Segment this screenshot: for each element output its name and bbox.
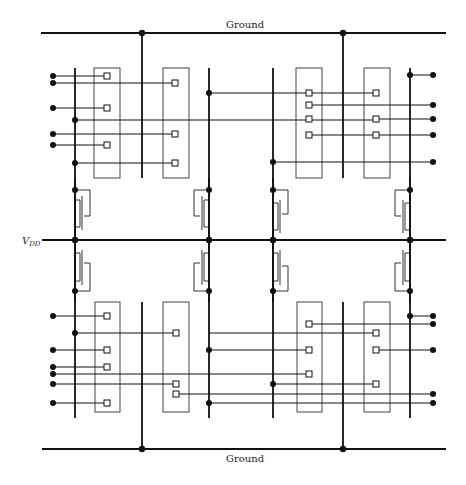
circuit-diagram: Ground Ground VDD <box>0 0 466 485</box>
vertical-buses <box>75 33 410 449</box>
ground-label-top: Ground <box>226 19 265 30</box>
ground-label-bottom: Ground <box>226 453 265 464</box>
transistor-upper-1 <box>75 190 90 230</box>
transistor-lower-2 <box>194 250 209 291</box>
transistor-upper-4 <box>395 190 410 233</box>
transistor-lower-4 <box>395 250 410 291</box>
transistor-upper-3 <box>273 190 288 233</box>
transistor-lower-1 <box>75 250 90 291</box>
vdd-label: VDD <box>22 235 41 248</box>
power-rails <box>41 33 446 449</box>
transistor-upper-2 <box>194 190 209 230</box>
lower-signal-wires <box>53 316 433 403</box>
transistor-lower-3 <box>273 250 288 291</box>
